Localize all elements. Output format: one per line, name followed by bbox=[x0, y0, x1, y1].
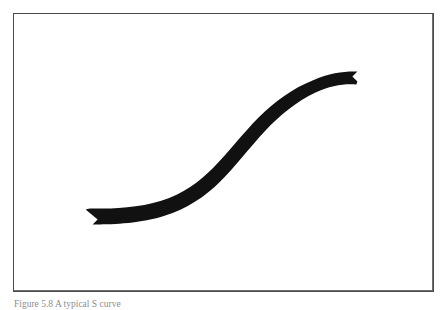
s-curve-stroke-path bbox=[86, 72, 358, 225]
page-root: Figure 5.8 A typical S curve bbox=[0, 0, 448, 310]
framed-figure-plate bbox=[13, 13, 434, 292]
s-curve-illustration bbox=[14, 14, 433, 291]
figure-caption: Figure 5.8 A typical S curve bbox=[14, 299, 434, 310]
